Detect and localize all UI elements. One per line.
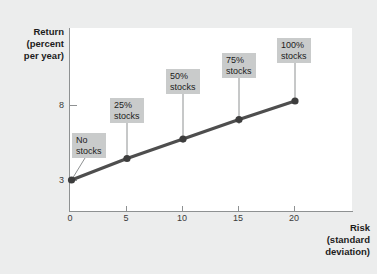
x-axis-tick-label-5: 5: [123, 213, 128, 223]
x-axis-tick-5: [126, 206, 127, 212]
annotation-75-stocks-line-1: 75%: [226, 55, 252, 66]
annotation-75-stocks: 75% stocks: [222, 53, 256, 78]
y-axis-line: [69, 28, 70, 212]
y-axis-title: Return (percent per year): [6, 26, 64, 62]
y-axis-title-line-2: (percent: [27, 38, 64, 49]
x-axis-tick-label-0: 0: [67, 213, 72, 223]
annotation-75-stocks-line-2: stocks: [226, 66, 252, 77]
annotation-100-stocks: 100% stocks: [277, 38, 311, 63]
annotation-100-stocks-line-2: stocks: [281, 51, 307, 62]
annotation-no-stocks: No stocks: [72, 133, 106, 158]
annotation-50-stocks: 50% stocks: [166, 69, 200, 94]
x-axis-title-line-2: (standard: [327, 234, 370, 245]
x-axis-line: [69, 211, 353, 212]
annotation-25-stocks-line-1: 25%: [114, 100, 140, 111]
x-axis-title-line-3: deviation): [325, 246, 370, 257]
annotation-no-stocks-line-1: No: [76, 135, 102, 146]
x-axis-title-line-1: Risk: [350, 222, 370, 233]
annotation-no-stocks-line-2: stocks: [76, 146, 102, 157]
annotation-50-stocks-line-1: 50%: [170, 71, 196, 82]
annotation-25-stocks-line-2: stocks: [114, 111, 140, 122]
y-axis-tick-label-8: 8: [59, 100, 64, 110]
y-axis-tick-3: [70, 180, 77, 181]
x-axis-tick-10: [182, 206, 183, 212]
y-axis-title-line-1: Return: [33, 26, 64, 37]
y-axis-tick-label-3: 3: [59, 175, 64, 185]
x-axis-tick-15: [238, 206, 239, 212]
x-axis-tick-label-15: 15: [233, 213, 243, 223]
annotation-50-stocks-line-2: stocks: [170, 82, 196, 93]
chart-figure: 8 3 0 5 10 15 20 Return (percent per yea…: [0, 0, 377, 274]
x-axis-tick-20: [294, 206, 295, 212]
y-axis-tick-8: [70, 105, 77, 106]
y-axis-title-line-3: per year): [24, 50, 64, 61]
x-axis-tick-label-10: 10: [177, 213, 187, 223]
x-axis-title: Risk (standard deviation): [265, 222, 370, 258]
annotation-100-stocks-line-1: 100%: [281, 40, 307, 51]
annotation-25-stocks: 25% stocks: [110, 98, 144, 123]
